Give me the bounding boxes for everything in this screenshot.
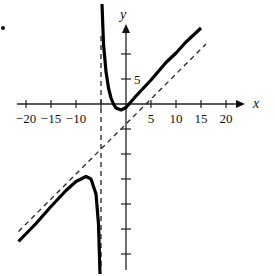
rational-function-graph: −20−15−105101520 5 x y xyxy=(0,0,275,276)
x-tick-label: 10 xyxy=(170,111,183,126)
x-tick-label: 15 xyxy=(195,111,208,126)
y-axis-label: y xyxy=(118,7,127,22)
x-tick-label: −15 xyxy=(41,111,61,126)
x-axis-label: x xyxy=(252,96,260,111)
x-tick-label: −20 xyxy=(16,111,36,126)
x-tick-label: −10 xyxy=(66,111,86,126)
right-branch-curve xyxy=(102,4,201,110)
asymptotes xyxy=(19,36,207,270)
x-tick-label: 5 xyxy=(148,111,155,126)
function-curves xyxy=(19,4,202,274)
slant-asymptote xyxy=(19,44,207,232)
y-tick-label: 5 xyxy=(134,72,141,87)
x-tick-label: 20 xyxy=(220,111,233,126)
y-axis-ticks: 5 xyxy=(121,54,141,254)
